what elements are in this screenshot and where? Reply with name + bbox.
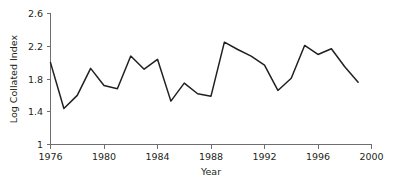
x-tick-label-6: 2000 [359, 151, 383, 162]
x-tick-label-4: 1992 [252, 151, 276, 162]
y-tick-label-2: 1.8 [28, 74, 43, 85]
y-axis-title: Log Collated Index [8, 34, 19, 123]
x-tick-label-0: 1976 [38, 151, 62, 162]
y-tick-label-0: 2.6 [28, 8, 43, 19]
x-axis-title: Year [200, 166, 221, 177]
y-tick-label-3: 1.4 [28, 106, 43, 117]
x-tick-label-2: 1984 [145, 151, 169, 162]
x-tick-label-5: 1996 [306, 151, 330, 162]
x-tick-marks [51, 145, 372, 149]
y-tick-marks [47, 14, 51, 145]
x-tick-label-3: 1988 [199, 151, 223, 162]
y-tick-labels: 2.6 2.2 1.8 1.4 1 [28, 8, 43, 150]
x-tick-label-1: 1980 [92, 151, 116, 162]
chart-figure: 2.6 2.2 1.8 1.4 1 1976 1980 1984 1988 19… [0, 0, 401, 180]
data-series-line [51, 42, 359, 108]
y-tick-label-1: 2.2 [28, 41, 43, 52]
y-tick-label-4: 1 [37, 139, 43, 150]
x-tick-labels: 1976 1980 1984 1988 1992 1996 2000 [38, 151, 383, 162]
line-chart: 2.6 2.2 1.8 1.4 1 1976 1980 1984 1988 19… [0, 0, 401, 180]
